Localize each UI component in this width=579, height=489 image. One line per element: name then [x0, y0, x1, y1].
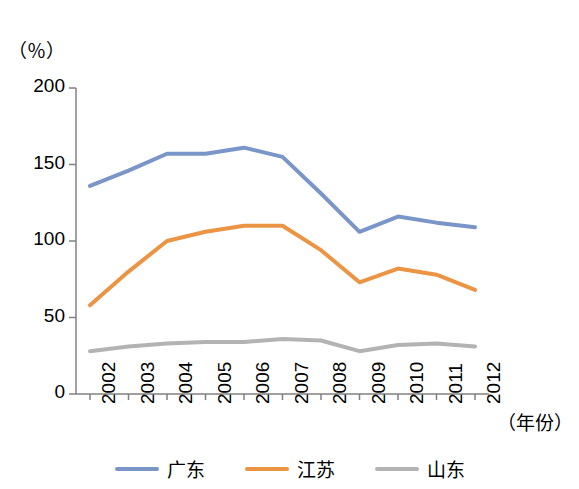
chart-legend: 广东江苏山东	[0, 455, 579, 482]
y-tick-label: 150	[21, 152, 65, 174]
x-tick-label: 2004	[175, 362, 197, 404]
legend-swatch-icon	[115, 467, 159, 471]
legend-label: 广东	[167, 455, 205, 482]
x-tick-label: 2010	[406, 362, 428, 404]
x-tick-label: 2011	[445, 363, 467, 404]
y-tick-label: 200	[21, 75, 65, 97]
legend-swatch-icon	[375, 467, 419, 471]
legend-item[interactable]: 江苏	[245, 455, 335, 482]
x-tick-label: 2006	[252, 362, 274, 404]
x-tick-label: 2003	[137, 362, 159, 404]
series-line	[90, 339, 475, 351]
axis-ticks	[69, 88, 475, 400]
x-tick-label: 2007	[291, 362, 313, 404]
x-tick-label: 2012	[483, 362, 505, 404]
line-chart: （％） （年份） 050100150200 200220032004200520…	[0, 0, 579, 489]
legend-label: 山东	[427, 455, 465, 482]
legend-swatch-icon	[245, 467, 289, 471]
y-tick-label: 0	[21, 381, 65, 403]
data-series	[90, 148, 475, 351]
legend-item[interactable]: 广东	[115, 455, 205, 482]
x-tick-label: 2005	[214, 362, 236, 404]
axes	[76, 88, 489, 394]
series-line	[90, 148, 475, 232]
legend-label: 江苏	[297, 455, 335, 482]
plot-area	[0, 0, 579, 489]
series-line	[90, 226, 475, 306]
legend-item[interactable]: 山东	[375, 455, 465, 482]
x-tick-label: 2008	[329, 362, 351, 404]
y-tick-label: 100	[21, 228, 65, 250]
x-tick-label: 2002	[98, 362, 120, 404]
y-tick-label: 50	[21, 305, 65, 327]
x-tick-label: 2009	[368, 362, 390, 404]
